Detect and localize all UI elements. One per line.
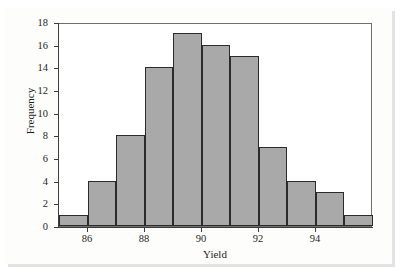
histogram-bar [116,135,145,226]
histogram-bar [145,67,174,226]
y-axis-tick-mark [54,159,58,160]
x-axis-tick-mark [144,228,145,232]
histogram-bar [344,215,373,226]
x-axis-tick-mark [87,228,88,232]
histogram-screenshot: 024681012141618 8688909294 Frequency Yie… [0,0,406,277]
histogram-bar [230,56,259,226]
histogram-bar [59,215,88,226]
x-axis-tick-label: 92 [238,234,278,245]
y-axis-tick-mark [54,23,58,24]
x-axis-line [58,227,373,228]
y-axis-tick-label: 16 [28,41,48,52]
y-axis-tick-mark [54,68,58,69]
y-axis-tick-mark [54,46,58,47]
x-axis-tick-mark [315,228,316,232]
y-axis-tick-mark [54,91,58,92]
x-axis-tick-label: 90 [181,234,221,245]
plot-area [58,23,372,227]
histogram-bar [202,45,231,226]
y-axis-tick-label: 2 [28,199,48,210]
x-axis-tick-label: 88 [124,234,164,245]
bars-layer [59,24,371,226]
x-axis-tick-mark [258,228,259,232]
histogram-bar [316,192,345,226]
histogram-bar [287,181,316,226]
x-axis-tick-label: 86 [67,234,107,245]
histogram-bar [88,181,117,226]
histogram-bar [259,147,288,226]
x-axis-tick-label: 94 [295,234,335,245]
y-axis-tick-label: 18 [28,18,48,29]
y-axis-tick-mark [54,204,58,205]
y-axis-tick-mark [54,136,58,137]
x-axis-tick-mark [201,228,202,232]
y-axis-tick-label: 0 [28,222,48,233]
y-axis-tick-label: 4 [28,177,48,188]
y-axis-tick-mark [54,182,58,183]
y-axis-title: Frequency [24,66,36,156]
y-axis-line [58,23,59,228]
y-axis-tick-mark [54,114,58,115]
histogram-bar [173,33,202,226]
x-axis-title: Yield [58,248,372,260]
y-axis-tick-mark [54,227,58,228]
